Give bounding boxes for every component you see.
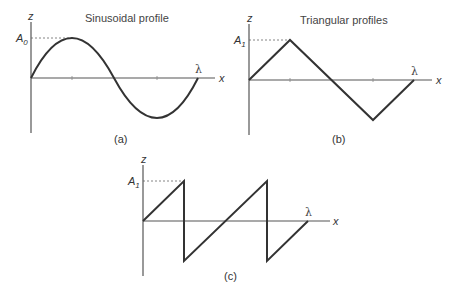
panel-b-caption: (b) <box>332 133 345 145</box>
panel-b: Triangular profiles z x A1 λ (b) <box>233 12 442 145</box>
panel-b-amplitude-label: A1 <box>233 34 246 49</box>
panel-c-caption: (c) <box>224 270 237 282</box>
panel-b-title: Triangular profiles <box>300 14 388 26</box>
panel-c-wavelength-label: λ <box>305 206 312 219</box>
panel-a-x-label: x <box>218 72 225 84</box>
panel-b-x-label: x <box>435 74 442 86</box>
panel-c-amplitude-label: A1 <box>127 175 140 190</box>
panel-b-wavelength-label: λ <box>411 65 418 78</box>
panel-c-x-label: x <box>332 215 339 227</box>
panel-b-z-label: z <box>246 12 253 24</box>
panel-c: z x A1 λ (c) <box>127 153 339 282</box>
diagram-canvas: Sinusoidal profile z x A0 λ (a) Triangul… <box>0 0 457 295</box>
panel-a-z-label: z <box>27 10 34 22</box>
panel-a-wavelength-label: λ <box>195 63 202 76</box>
panel-c-z-label: z <box>140 153 147 165</box>
panel-a-title: Sinusoidal profile <box>85 12 169 24</box>
panel-a: Sinusoidal profile z x A0 λ (a) <box>15 10 225 145</box>
panel-a-caption: (a) <box>114 133 127 145</box>
panel-a-amplitude-label: A0 <box>15 32 28 47</box>
